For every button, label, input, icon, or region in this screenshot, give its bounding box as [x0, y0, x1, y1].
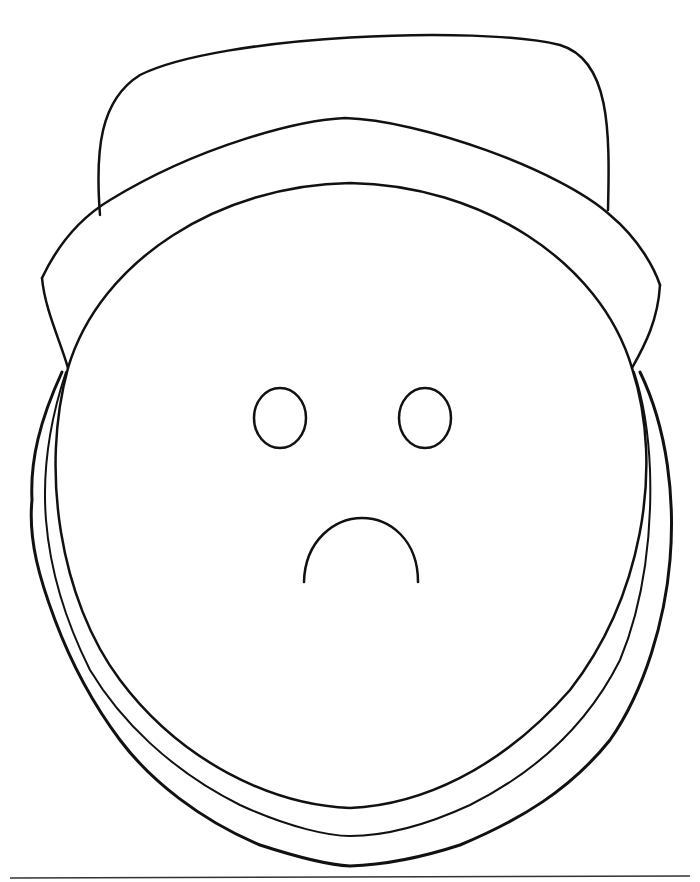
left-eye: [254, 388, 306, 448]
right-eye: [399, 388, 451, 448]
hat-brim-left: [42, 278, 68, 368]
sad-mouth: [304, 518, 418, 582]
line-drawing: [0, 0, 700, 882]
bottom-rule: [10, 876, 690, 878]
face-outline: [56, 183, 647, 808]
hat-crown: [98, 35, 608, 215]
hat-brim: [42, 118, 660, 285]
hat-brim-right: [632, 285, 660, 368]
beard-outline: [31, 372, 671, 866]
beard-inner: [45, 372, 650, 836]
